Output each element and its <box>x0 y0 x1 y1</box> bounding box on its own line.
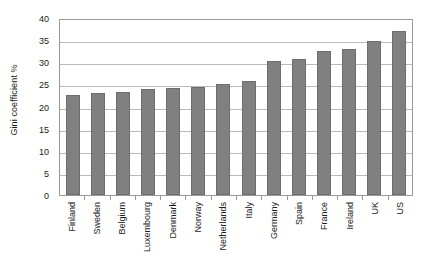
x-axis-tick-label: Germany <box>269 202 278 239</box>
x-label-slot: France <box>312 202 337 274</box>
bar-slot <box>211 20 236 195</box>
x-label-slot: US <box>388 202 413 274</box>
bar-slot <box>186 20 211 195</box>
x-axis-tick-label: Ireland <box>345 202 354 230</box>
y-axis-tick-labels: 0510152025303540 <box>28 19 54 196</box>
x-axis-tick <box>312 196 313 200</box>
bar-france[interactable] <box>317 51 331 195</box>
x-axis-tick-label: Netherlands <box>219 202 228 251</box>
bar-slot <box>110 20 135 195</box>
y-axis-tick-label: 30 <box>39 59 49 68</box>
bar-slot <box>311 20 336 195</box>
x-axis-tick-label: Italy <box>244 202 253 219</box>
x-axis-tick-label: France <box>320 202 329 230</box>
x-label-slot: Finland <box>59 202 84 274</box>
y-axis-tick-label: 35 <box>39 37 49 46</box>
x-label-slot: Denmark <box>160 202 185 274</box>
bar-slot <box>85 20 110 195</box>
bar-slot <box>161 20 186 195</box>
x-axis-tick <box>185 196 186 200</box>
bar-norway[interactable] <box>191 87 205 195</box>
x-axis-category-labels: FinlandSwedenBelgiumLuxembourgDenmarkNor… <box>59 202 413 274</box>
x-axis-tick-label: Finland <box>67 202 76 232</box>
y-axis-tick-label: 40 <box>39 15 49 24</box>
x-label-slot: Spain <box>287 202 312 274</box>
y-axis-title: Gini coefficient % <box>0 0 28 200</box>
bar-germany[interactable] <box>267 61 281 195</box>
x-axis-tick-marks <box>59 196 413 200</box>
x-label-slot: Germany <box>261 202 286 274</box>
bar-denmark[interactable] <box>166 88 180 195</box>
bar-us[interactable] <box>392 31 406 195</box>
bar-finland[interactable] <box>66 95 80 195</box>
bar-slot <box>236 20 261 195</box>
x-axis-tick <box>261 196 262 200</box>
x-axis-tick <box>84 196 85 200</box>
bar-luxembourg[interactable] <box>141 89 155 195</box>
x-axis-tick <box>388 196 389 200</box>
x-axis-tick <box>362 196 363 200</box>
bar-ireland[interactable] <box>342 49 356 195</box>
bar-belgium[interactable] <box>116 92 130 195</box>
x-axis-tick-label: Belgium <box>118 202 127 235</box>
bars-container <box>60 20 412 195</box>
bar-slot <box>135 20 160 195</box>
x-axis-tick-label: Sweden <box>92 202 101 235</box>
y-axis-tick-label: 25 <box>39 81 49 90</box>
y-axis-tick-label: 0 <box>44 192 49 201</box>
x-axis-tick <box>236 196 237 200</box>
bar-slot <box>60 20 85 195</box>
y-axis-title-label: Gini coefficient % <box>9 64 19 135</box>
bar-slot <box>261 20 286 195</box>
x-axis-tick <box>211 196 212 200</box>
bar-slot <box>362 20 387 195</box>
x-label-slot: Netherlands <box>211 202 236 274</box>
x-axis-tick <box>337 196 338 200</box>
x-label-slot: UK <box>362 202 387 274</box>
y-axis-tick-label: 5 <box>44 169 49 178</box>
bar-spain[interactable] <box>292 59 306 195</box>
x-axis-tick <box>135 196 136 200</box>
y-axis-tick-label: 15 <box>39 125 49 134</box>
bar-netherlands[interactable] <box>216 84 230 196</box>
bar-slot <box>286 20 311 195</box>
gini-coefficient-bar-chart: Gini coefficient % 0510152025303540 Finl… <box>0 0 437 275</box>
x-axis-tick <box>287 196 288 200</box>
bar-sweden[interactable] <box>91 93 105 195</box>
x-label-slot: Belgium <box>110 202 135 274</box>
y-axis-tick-label: 20 <box>39 103 49 112</box>
bar-italy[interactable] <box>242 81 256 195</box>
x-axis-tick-label: Norway <box>194 202 203 233</box>
x-axis-tick-label: US <box>396 202 405 215</box>
y-axis-tick-label: 10 <box>39 147 49 156</box>
bar-uk[interactable] <box>367 41 381 195</box>
bar-slot <box>337 20 362 195</box>
x-label-slot: Ireland <box>337 202 362 274</box>
x-label-slot: Norway <box>185 202 210 274</box>
x-axis-tick-label: UK <box>371 202 380 215</box>
x-axis-tick-label: Spain <box>295 202 304 225</box>
x-axis-tick-label: Luxembourg <box>143 202 152 252</box>
x-axis-tick-label: Denmark <box>168 202 177 239</box>
x-axis-tick <box>110 196 111 200</box>
x-label-slot: Italy <box>236 202 261 274</box>
x-label-slot: Sweden <box>84 202 109 274</box>
x-label-slot: Luxembourg <box>135 202 160 274</box>
bar-slot <box>387 20 412 195</box>
plot-area <box>59 19 413 196</box>
x-axis-tick <box>160 196 161 200</box>
